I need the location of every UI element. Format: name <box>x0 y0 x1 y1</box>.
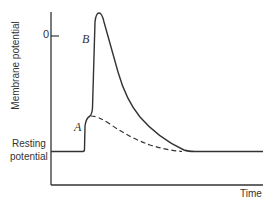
resting-label-line2: potential <box>10 151 48 162</box>
zero-tick-label: 0 <box>43 29 49 40</box>
x-axis-label: Time <box>240 188 262 199</box>
y-axis-label: Membrane potential <box>10 21 21 111</box>
resting-label-line1: Resting <box>12 138 46 149</box>
membrane-potential-plot <box>0 0 276 205</box>
curve-b-label: B <box>82 34 89 45</box>
curve-a-label: A <box>74 122 81 133</box>
curve-a-local-potential <box>91 116 182 152</box>
